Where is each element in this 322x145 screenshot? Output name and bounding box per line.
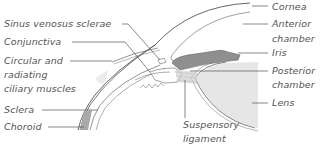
- label-ciliary-muscles-line1: Circular and: [4, 54, 63, 68]
- label-sinus-venosus-sclerae: Sinus venosus sclerae: [4, 17, 111, 31]
- label-conjunctiva: Conjunctiva: [4, 35, 61, 49]
- label-suspensory-ligament-line1: Suspensory: [183, 118, 239, 132]
- ciliary-processes: [140, 83, 164, 88]
- label-suspensory-ligament-line2: ligament: [183, 132, 226, 145]
- label-posterior-chamber-line2: chamber: [272, 78, 315, 92]
- label-sclera: Sclera: [4, 103, 34, 117]
- label-ciliary-muscles-line2: radiating: [4, 68, 48, 82]
- suspensory-fill: [175, 70, 197, 84]
- eye-diagram: Cornea Anterior chamber Iris Posterior c…: [0, 0, 322, 145]
- label-anterior-chamber-line1: Anterior: [272, 17, 311, 31]
- label-anterior-chamber-line2: chamber: [272, 32, 315, 46]
- label-ciliary-muscles-line3: ciliary muscles: [4, 82, 76, 96]
- label-cornea: Cornea: [272, 0, 307, 14]
- label-posterior-chamber-line1: Posterior: [272, 64, 315, 78]
- eyelid-shadow: [95, 70, 108, 84]
- label-iris: Iris: [272, 46, 287, 60]
- label-choroid: Choroid: [4, 120, 42, 134]
- label-lens: Lens: [272, 96, 295, 110]
